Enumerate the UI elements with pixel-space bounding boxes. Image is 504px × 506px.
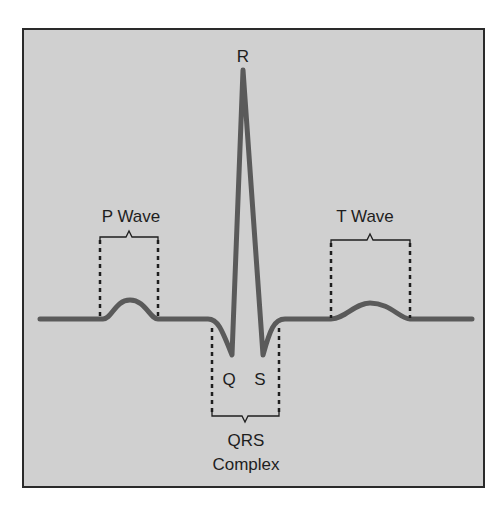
label-q: Q — [222, 370, 235, 389]
label-t-wave: T Wave — [336, 207, 394, 226]
label-qrs: QRS — [228, 431, 265, 450]
label-r: R — [237, 47, 249, 66]
p-wave-bracket — [100, 231, 158, 318]
ecg-diagram: R P Wave T Wave Q S QRS Complex — [0, 0, 504, 506]
label-s: S — [254, 370, 265, 389]
label-complex: Complex — [212, 455, 280, 474]
label-p-wave: P Wave — [102, 207, 161, 226]
